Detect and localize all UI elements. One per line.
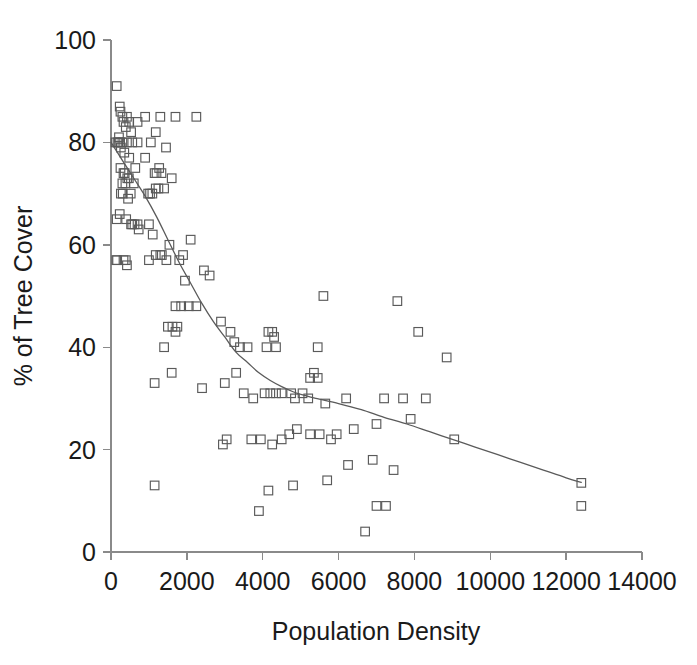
data-point (577, 502, 586, 511)
data-point (192, 113, 201, 122)
data-point (112, 82, 121, 91)
data-point (313, 343, 322, 352)
data-point (152, 169, 161, 178)
x-axis-tick-labels: 02000400060008000100001200014000 (104, 567, 677, 595)
data-point (257, 435, 266, 444)
data-point (125, 153, 134, 162)
data-point (150, 379, 159, 388)
x-tick-label: 0 (104, 567, 118, 595)
x-tick-label: 12000 (531, 567, 601, 595)
data-point (372, 502, 381, 511)
data-point (141, 153, 150, 162)
data-point (167, 369, 176, 378)
data-point (186, 235, 195, 244)
data-point (198, 384, 207, 393)
data-point (173, 322, 182, 331)
data-point (368, 456, 377, 465)
x-tick-label: 8000 (387, 567, 443, 595)
data-point (118, 179, 127, 188)
y-axis-title: % of Tree Cover (9, 206, 37, 387)
data-point (361, 527, 370, 536)
x-tick-label: 6000 (311, 567, 367, 595)
y-tick-label: 20 (68, 436, 96, 464)
y-tick-label: 80 (68, 128, 96, 156)
data-point (327, 435, 336, 444)
data-point (277, 389, 286, 398)
data-point (239, 389, 248, 398)
data-point (120, 148, 129, 157)
x-tick-label: 10000 (456, 567, 526, 595)
x-axis: 02000400060008000100001200014000 (104, 552, 677, 595)
data-point (128, 138, 137, 147)
x-axis-ticks (111, 552, 642, 560)
data-point (226, 328, 235, 337)
data-point (118, 189, 127, 198)
data-point (160, 343, 169, 352)
y-axis-tick-labels: 020406080100 (54, 26, 96, 566)
data-point (319, 292, 328, 301)
chart-figure: 020406080100 020004000600080001000012000… (0, 0, 697, 665)
data-point (249, 394, 258, 403)
data-point (260, 389, 269, 398)
data-point (167, 174, 176, 183)
data-point (255, 507, 264, 516)
data-point (315, 430, 324, 439)
data-point (393, 297, 402, 306)
y-tick-label: 0 (82, 538, 96, 566)
data-point (306, 430, 315, 439)
data-point (121, 123, 130, 132)
data-point (332, 430, 341, 439)
data-point (323, 476, 332, 485)
data-point (406, 415, 415, 424)
data-point (160, 184, 169, 193)
data-point (380, 394, 389, 403)
data-point (372, 420, 381, 429)
y-tick-label: 60 (68, 231, 96, 259)
data-point (270, 333, 279, 342)
data-point (266, 389, 275, 398)
data-point (289, 481, 298, 490)
x-tick-label: 14000 (607, 567, 677, 595)
x-axis-title: Population Density (272, 617, 481, 645)
y-tick-label: 100 (54, 26, 96, 54)
data-point (422, 394, 431, 403)
data-point (272, 389, 281, 398)
data-point (151, 128, 160, 137)
y-axis: 020406080100 (54, 26, 111, 566)
data-point (156, 113, 165, 122)
data-point (382, 502, 391, 511)
data-point (349, 425, 358, 434)
data-point (112, 215, 121, 224)
data-point (171, 302, 180, 311)
data-point (127, 128, 136, 137)
scatter-plot: 020406080100 020004000600080001000012000… (0, 0, 697, 665)
data-point (247, 435, 256, 444)
data-point (122, 215, 131, 224)
data-point (200, 266, 209, 275)
trend-line (111, 142, 581, 482)
scatter-markers (111, 82, 585, 536)
data-point (121, 179, 130, 188)
y-axis-ticks (103, 40, 111, 552)
data-point (148, 230, 157, 239)
data-point (232, 369, 241, 378)
data-point (272, 343, 281, 352)
data-point (171, 113, 180, 122)
data-point (131, 164, 140, 173)
data-point (220, 379, 229, 388)
data-point (389, 466, 398, 475)
data-point (262, 343, 271, 352)
data-point (264, 486, 273, 495)
x-tick-label: 2000 (159, 567, 215, 595)
data-point (133, 138, 142, 147)
data-point (115, 210, 124, 219)
data-point (205, 271, 214, 280)
data-point (162, 143, 171, 152)
data-point (150, 481, 159, 490)
data-point (154, 184, 163, 193)
data-point (344, 461, 353, 470)
data-point (126, 189, 135, 198)
x-tick-label: 4000 (235, 567, 291, 595)
data-point (146, 189, 155, 198)
data-point (147, 138, 156, 147)
